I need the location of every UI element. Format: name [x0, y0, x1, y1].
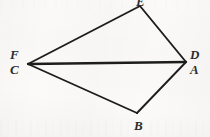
vertex-label-F: F	[10, 48, 19, 61]
diagonal-C-A	[28, 62, 186, 64]
vertex-label-C: C	[10, 63, 19, 76]
edge-C-E	[28, 6, 140, 64]
edge-A-B	[137, 62, 186, 113]
vertex-label-B: B	[134, 119, 143, 132]
edge-E-D	[140, 6, 186, 62]
geometry-figure: E D A B F C	[0, 0, 210, 137]
edge-B-C	[28, 64, 137, 113]
vertex-label-D: D	[190, 48, 199, 61]
vertex-label-A: A	[190, 63, 199, 76]
vertex-label-E: E	[136, 0, 145, 8]
figure-line-art	[0, 0, 210, 137]
